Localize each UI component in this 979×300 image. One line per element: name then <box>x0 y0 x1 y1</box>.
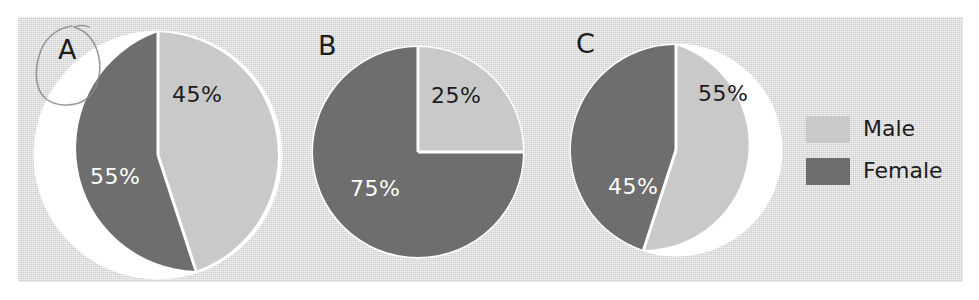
pie-b-label-male: 25% <box>431 85 481 107</box>
pie-chart-figure: A B C 45% 55% 25% 75% 55% 45% Male Femal… <box>0 0 979 300</box>
pie-c-label-male: 55% <box>698 83 748 105</box>
pie-a-label-female: 55% <box>90 166 140 188</box>
chart-legend: Male Female <box>806 108 956 192</box>
legend-label-female: Female <box>863 160 943 182</box>
legend-item-male: Male <box>806 108 956 150</box>
pie-c-label-female: 45% <box>608 176 658 198</box>
legend-item-female: Female <box>806 150 956 192</box>
panel-label-b: B <box>318 32 337 59</box>
panel-label-a: A <box>58 36 76 63</box>
panel-label-c: C <box>576 30 595 57</box>
pie-b-label-female: 75% <box>350 178 400 200</box>
legend-label-male: Male <box>863 118 915 140</box>
pie-a-label-male: 45% <box>172 84 222 106</box>
legend-swatch-male <box>806 116 850 143</box>
legend-swatch-female <box>806 158 850 185</box>
